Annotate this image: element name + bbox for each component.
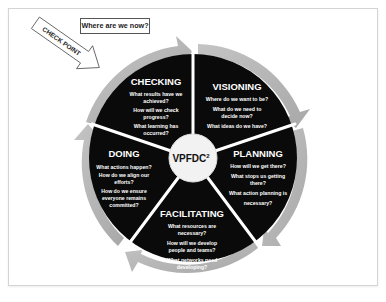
svg-text:everyone remains: everyone remains [102,195,146,201]
svg-text:achieved?: achieved? [143,98,168,104]
svg-text:Where do we want to be?: Where do we want to be? [206,96,268,102]
svg-text:What networks need: What networks need [167,257,217,263]
segment-title-facilitating: FACILITATING [160,208,224,219]
segment-title-planning: PLANNING [233,148,283,159]
svg-text:What action planning is: What action planning is [229,190,287,196]
svg-text:committed?: committed? [109,202,138,208]
svg-text:How do we ensure: How do we ensure [101,188,147,194]
svg-text:decide now?: decide now? [221,113,252,119]
svg-text:What do we need to: What do we need to [213,106,262,112]
svg-text:What stops us getting: What stops us getting [231,173,285,179]
svg-text:people and teams?: people and teams? [169,247,216,253]
svg-text:efforts?: efforts? [114,179,133,185]
svg-text:progress?: progress? [143,114,168,120]
segment-title-doing: DOING [108,148,139,159]
segment-title-visioning: VISIONING [212,81,261,92]
svg-text:How will we develop: How will we develop [167,240,217,246]
svg-text:What actions happen?: What actions happen? [96,164,151,170]
svg-text:What ideas do we have?: What ideas do we have? [207,123,267,129]
svg-text:there?: there? [250,180,266,186]
svg-text:occurred?: occurred? [143,130,168,136]
segment-title-checking: CHECKING [131,76,182,87]
vpfdc-cycle-wheel: VPFDC2 CHECKING What results have we ach… [0,0,386,302]
svg-text:necessary?: necessary? [244,200,273,206]
svg-text:What results have we: What results have we [130,91,183,97]
svg-text:What learning has: What learning has [134,123,179,129]
svg-text:How do we align our: How do we align our [99,172,149,178]
center-label: VPFDC2 [172,153,210,164]
svg-text:necessary?: necessary? [178,230,207,236]
where-are-we-now-label: Where are we now? [80,18,150,34]
checkpoint-label: CHECK POINT [41,25,82,56]
svg-text:How will we get there?: How will we get there? [230,163,286,169]
svg-text:developing?: developing? [177,264,208,270]
svg-text:How will we check: How will we check [133,107,178,113]
svg-text:What resources are: What resources are [168,223,216,229]
